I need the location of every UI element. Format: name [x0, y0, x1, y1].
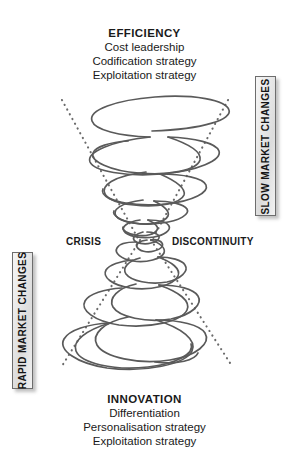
top-line-1: Cost leadership [0, 40, 289, 54]
bottom-heading: INNOVATION [0, 392, 289, 406]
upper-cone-spiral [90, 96, 230, 244]
rapid-market-changes-box: RAPID MARKET CHANGES [12, 252, 33, 389]
top-text-block: EFFICIENCY Cost leadership Codification … [0, 26, 289, 82]
bottom-line-1: Differentiation [0, 406, 289, 420]
bottom-line-2: Personalisation strategy [0, 420, 289, 434]
lower-cone-spiral [63, 240, 207, 370]
bottom-line-3: Exploitation strategy [0, 434, 289, 448]
rapid-market-changes-label: RAPID MARKET CHANGES [17, 252, 28, 389]
top-heading: EFFICIENCY [0, 26, 289, 40]
bottom-text-block: INNOVATION Differentiation Personalisati… [0, 392, 289, 448]
top-line-3: Exploitation strategy [0, 68, 289, 82]
slow-market-changes-label: SLOW MARKET CHANGES [260, 78, 271, 214]
lower-left-dotted-line [62, 240, 140, 366]
discontinuity-label: DISCONTINUITY [172, 236, 254, 247]
upper-left-dotted-line [62, 100, 140, 242]
slow-market-changes-box: SLOW MARKET CHANGES [255, 76, 276, 216]
crisis-label: CRISIS [66, 236, 101, 247]
top-line-2: Codification strategy [0, 54, 289, 68]
